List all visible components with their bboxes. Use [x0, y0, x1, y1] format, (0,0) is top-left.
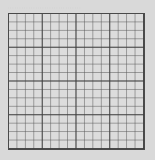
graph-paper-page: · · · · · · · · · · · · · · · · · · · · …	[0, 0, 155, 160]
header-caption: · · · · · · · · · · · · · · · · · · · · …	[8, 6, 146, 10]
square-grid	[8, 13, 145, 150]
